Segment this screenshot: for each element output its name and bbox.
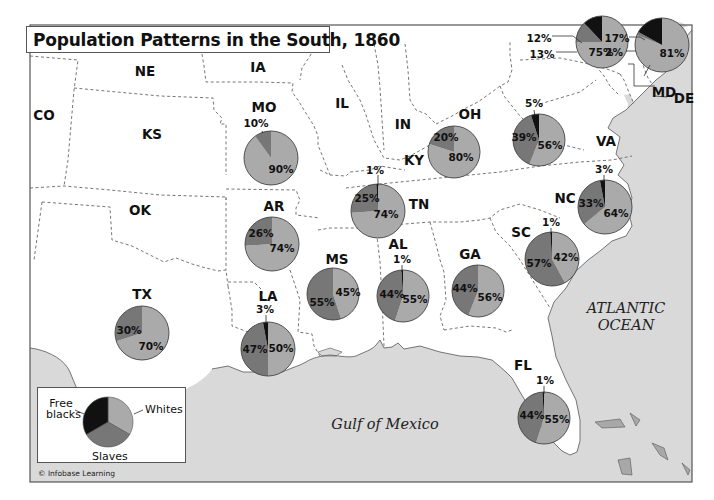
pie-nc-pct-label: 33% <box>578 197 603 209</box>
state-label-ga: GA <box>459 246 481 262</box>
state-label-oh: OH <box>459 106 482 122</box>
state-label-mo: MO <box>252 99 277 115</box>
state-label-va: VA <box>596 133 616 149</box>
state-label-ks: KS <box>142 126 162 142</box>
pie-mo-pct-label: 10% <box>243 117 268 129</box>
pie-sc-pct-label: 1% <box>542 216 560 228</box>
pie-la-pct-label: 3% <box>256 303 274 315</box>
state-label-nc: NC <box>554 190 575 206</box>
pie-ms-pct-label: 45% <box>335 286 360 298</box>
pie-va-pct-label: 56% <box>537 139 562 151</box>
pie-tn-pct-label: 25% <box>354 192 379 204</box>
atlantic-ocean-label: ATLANTIC OCEAN <box>587 300 666 334</box>
pie-va-pct-label: 39% <box>511 131 536 143</box>
legend: Free blacks Whites Slaves <box>37 387 186 463</box>
pie-ms-pct-label: 55% <box>309 296 334 308</box>
pie-ar-pct-label: 74% <box>269 242 294 254</box>
state-label-fl: FL <box>514 357 532 373</box>
state-label-ky: KY <box>404 152 424 168</box>
pie-de-pct-label: 17% <box>604 32 629 44</box>
pie-al-pct-label: 55% <box>402 293 427 305</box>
state-label-ia: IA <box>250 59 265 75</box>
pie-nc-pct-label: 3% <box>595 163 613 175</box>
map-container: Population Patterns in the South, 1860 N… <box>0 0 714 500</box>
pie-nc-pct-label: 64% <box>603 207 628 219</box>
state-label-sc: SC <box>511 224 531 240</box>
pie-al-pct-label: 1% <box>393 253 411 265</box>
state-label-ar: AR <box>264 198 285 214</box>
pie-la-pct-label: 47% <box>242 343 267 355</box>
pie-tx-pct-label: 70% <box>138 340 163 352</box>
map-title-box: Population Patterns in the South, 1860 <box>26 26 330 53</box>
pie-ky-pct-label: 20% <box>433 131 458 143</box>
state-label-md: MD <box>652 84 677 100</box>
pie-fl-pct-label: 1% <box>536 374 554 386</box>
state-label-co: CO <box>33 107 54 123</box>
state-label-in: IN <box>395 116 411 132</box>
state-label-ne: NE <box>135 63 156 79</box>
pie-md-pct-label: 12% <box>526 32 551 44</box>
pie-tx-pct-label: 30% <box>116 324 141 336</box>
pie-sc-pct-label: 57% <box>526 257 551 269</box>
state-label-tn: TN <box>409 196 430 212</box>
state-label-al: AL <box>388 236 407 252</box>
pie-tn-pct-label: 1% <box>366 164 384 176</box>
atlantic-label-line1: ATLANTIC <box>587 300 666 317</box>
pie-de-pct-label: 81% <box>659 47 684 59</box>
pie-ky-pct-label: 80% <box>448 151 473 163</box>
state-label-il: IL <box>335 95 349 111</box>
state-label-de: DE <box>674 90 694 106</box>
pie-la-pct-label: 50% <box>268 342 293 354</box>
legend-whites-label: Whites <box>145 404 183 415</box>
state-label-ok: OK <box>129 202 151 218</box>
pie-al-pct-label: 44% <box>379 288 404 300</box>
pie-sc-pct-label: 42% <box>553 251 578 263</box>
pie-tn-pct-label: 74% <box>373 208 398 220</box>
legend-slaves-label: Slaves <box>92 451 128 462</box>
map-title: Population Patterns in the South, 1860 <box>33 30 400 50</box>
state-label-la: LA <box>258 288 277 304</box>
legend-free-blacks-label: Free blacks <box>46 398 76 420</box>
pie-de-pct-label: 2% <box>605 46 623 58</box>
pie-fl-pct-label: 55% <box>544 413 569 425</box>
copyright-credit: © Infobase Learning <box>38 469 115 478</box>
pie-va-pct-label: 5% <box>525 97 543 109</box>
gulf-of-mexico-label: Gulf of Mexico <box>331 416 438 433</box>
atlantic-label-line2: OCEAN <box>587 317 666 334</box>
state-label-ms: MS <box>325 251 348 267</box>
pie-ar-pct-label: 26% <box>248 227 273 239</box>
pie-md-pct-label: 13% <box>529 48 554 60</box>
pie-fl-pct-label: 44% <box>519 409 544 421</box>
state-label-tx: TX <box>132 286 152 302</box>
pie-ga-pct-label: 56% <box>477 291 502 303</box>
pie-ga-pct-label: 44% <box>452 282 477 294</box>
pie-mo-pct-label: 90% <box>268 163 293 175</box>
